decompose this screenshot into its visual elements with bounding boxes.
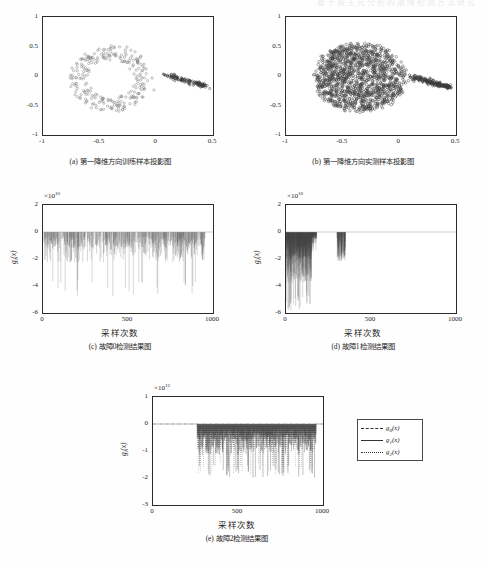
figure-e-ytick-m3: -3 [126,500,148,508]
figure-a-ytick-0-5: 0.5 [18,42,38,50]
figure-d-ytick-m6: -6 [259,308,281,316]
figure-c-ylabel-g: g [9,260,18,264]
figure-e-exponent-power: 12 [165,383,170,388]
figure-a-ytick-1: 1 [24,12,38,20]
figure-b-xtick-m1: -1 [282,137,288,145]
figure-e-ylabel: gi(x) [119,429,130,469]
figure-b-ytick-1: 1 [267,12,281,20]
figure-c-xtick-1000: 1000 [205,315,219,323]
legend-label-g1: g1(x) [386,436,399,445]
figure-e-ytick-0: 0 [132,419,148,427]
figure-a-plot-area [42,16,214,136]
figure-d-caption: (d) 故障1检测结果图 [243,340,483,351]
figure-c-xtick-0: 0 [40,315,44,323]
figure-c-ytick-0: 0 [22,227,38,235]
figure-d-ytick-m4: -4 [259,281,281,289]
figure-e-xtick-500: 500 [232,507,243,515]
figure-e-caption: (e) 故障2检测结果图 [110,532,364,543]
figure-d-ylabel: gi(x) [252,237,263,277]
figure-d-xtick-1000: 1000 [448,315,462,323]
figure-d-ylabel-suffix: (x) [252,251,261,259]
figure-d-exponent-power: 10 [298,191,303,196]
figure-b-plot-area [285,16,457,136]
figure-e-ylabel-g: g [119,452,128,456]
figure-e-ytick-m1: -1 [126,446,148,454]
figure-c-ylabel: gi(x) [9,237,20,277]
figure-b-caption: (b) 第一降维方向实测样本投影图 [243,155,483,166]
figure-a-xtick-m0-5: -0.5 [93,137,104,145]
figure-a-xtick-0: 0 [154,137,158,145]
figure-b-ytick-0: 0 [267,71,281,79]
figure-c-caption: (c) 故障0检测结果图 [0,340,240,351]
legend-label-g2: g2(x) [386,448,399,457]
figure-b-xtick-m0-5: -0.5 [336,137,347,145]
figure-c-ytick-m4: -4 [16,281,38,289]
figure-a-ytick-m1: -1 [20,130,38,138]
figure-c-ytick-m2: -2 [16,254,38,262]
legend-entry-g1[interactable]: g1(x) [361,436,399,445]
figure-a-scatter-canvas [43,17,213,135]
legend-entry-g2[interactable]: g2(x) [361,448,399,457]
figure-a-xtick-m1: -1 [39,137,45,145]
figure-d-ylabel-g: g [252,260,261,264]
figure-c-xtick-500: 500 [122,315,133,323]
figure-c-xlabel: 采样次数 [0,326,240,338]
figure-d-ytick-2: 2 [265,200,281,208]
chart-e-legend: g0(x) g1(x) g2(x) [357,419,423,461]
legend-swatch-g2 [361,452,383,453]
running-header: 基于核主元分析的故障检测方法研究 [317,0,477,7]
figure-e-xlabel: 采样次数 [110,518,364,530]
figure-e: ×1012 1 0 -1 -2 -3 0 500 1000 gi(x) 采样次数… [110,382,370,557]
figure-c-line-canvas [43,205,213,313]
legend-entry-g0[interactable]: g0(x) [361,424,399,433]
figure-d-ytick-0: 0 [265,227,281,235]
figure-d-ytick-m2: -2 [259,254,281,262]
figure-b-scatter-canvas [286,17,456,135]
figure-e-xtick-1000: 1000 [315,507,329,515]
figure-b-ytick-m0-5: -0.5 [257,101,281,109]
figure-c-exponent: ×1010 [44,191,60,200]
figure-e-exponent-mantissa: ×10 [154,384,165,392]
figure-e-ytick-1: 1 [132,392,148,400]
figure-b-xtick-0: 0 [397,137,401,145]
figure-d-exponent: ×1010 [287,191,303,200]
figure-a-xtick-0-5: 0.5 [208,137,217,145]
figure-e-plot-area [152,396,324,506]
figure-e-xtick-0: 0 [150,507,154,515]
figure-b: 1 0.5 0 -0.5 -1 -1 -0.5 0 0.5 (b) 第一降维方向… [243,8,483,178]
figure-d-line-canvas [286,205,456,313]
figure-d-xtick-500: 500 [365,315,376,323]
figure-a: 1 0.5 0 -0.5 -1 -1 -0.5 0 0.5 (a) 第一降维方向… [0,8,240,178]
legend-label-g0: g0(x) [386,424,399,433]
figure-d-xlabel: 采样次数 [243,326,483,338]
figure-d-exponent-mantissa: ×10 [287,192,298,200]
figure-e-ylabel-suffix: (x) [119,443,128,451]
figure-b-ytick-m1: -1 [263,130,281,138]
figure-a-ytick-0: 0 [24,71,38,79]
figure-d: ×1010 2 0 -2 -4 -6 0 500 1000 gi(x) 采样次数… [243,190,483,365]
figure-c-ylabel-suffix: (x) [9,251,18,259]
figure-d-xtick-0: 0 [283,315,287,323]
figure-b-xtick-0-5: 0.5 [451,137,460,145]
figure-c: ×1010 2 0 -2 -4 -6 0 500 1000 gi(x) 采样次数… [0,190,240,365]
figure-b-ytick-0-5: 0.5 [261,42,281,50]
figure-a-ytick-m0-5: -0.5 [14,101,38,109]
figure-c-ytick-m6: -6 [16,308,38,316]
figure-c-exponent-mantissa: ×10 [44,192,55,200]
figure-c-plot-area [42,204,214,314]
figure-c-ytick-2: 2 [22,200,38,208]
figure-c-exponent-power: 10 [55,191,60,196]
legend-swatch-g1 [361,440,383,441]
figure-page: 基于核主元分析的故障检测方法研究 1 0.5 0 -0.5 -1 -1 -0.5… [0,0,483,564]
figure-a-caption: (a) 第一降维方向训练样本投影图 [0,155,240,166]
figure-d-plot-area [285,204,457,314]
figure-e-ytick-m2: -2 [126,473,148,481]
figure-e-line-canvas [153,397,323,505]
figure-e-exponent: ×1012 [154,383,170,392]
legend-swatch-g0 [361,428,383,429]
